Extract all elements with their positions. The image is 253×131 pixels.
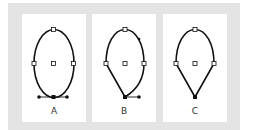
anchor-point-icon — [174, 62, 178, 66]
anchor-point-icon — [193, 28, 197, 32]
center-point-icon — [52, 62, 56, 66]
panel-label-a: A — [22, 105, 86, 117]
anchor-point-icon — [142, 62, 146, 66]
anchor-point-icon — [123, 28, 127, 32]
panel-label-b: B — [92, 105, 156, 117]
anchor-point-icon — [52, 28, 56, 32]
handle-point-icon — [37, 95, 41, 99]
anchor-point-icon — [32, 62, 36, 66]
panel-label-c: C — [163, 105, 227, 117]
anchor-point-icon — [212, 62, 216, 66]
center-point-icon — [193, 62, 197, 66]
center-point-icon — [123, 62, 127, 66]
handle-point-icon — [65, 95, 69, 99]
path-c — [174, 28, 216, 100]
selected-anchor-icon — [193, 95, 197, 99]
handle-point-icon — [138, 38, 141, 41]
path-a — [32, 28, 76, 100]
selected-anchor-icon — [52, 95, 56, 99]
anchor-point-icon — [72, 62, 76, 66]
selected-anchor-icon — [123, 95, 127, 99]
path-b — [104, 28, 146, 100]
anchor-point-icon — [104, 62, 108, 66]
handle-point-icon — [137, 95, 141, 99]
